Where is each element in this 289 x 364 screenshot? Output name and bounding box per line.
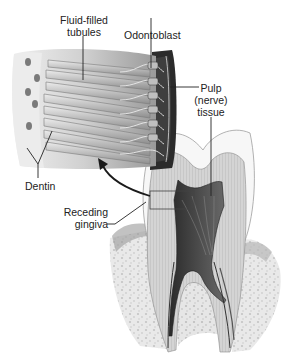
label-dentin: Dentin <box>25 180 55 192</box>
label-pulp-nerve-tissue: Pulp (nerve) tissue <box>194 82 228 118</box>
magnified-dentin-detail <box>12 49 177 170</box>
label-receding-gingiva: Receding gingiva <box>58 206 108 230</box>
label-odontoblast: Odontoblast <box>124 29 181 41</box>
label-fluid-filled-tubules: Fluid-filled tubules <box>52 14 116 38</box>
